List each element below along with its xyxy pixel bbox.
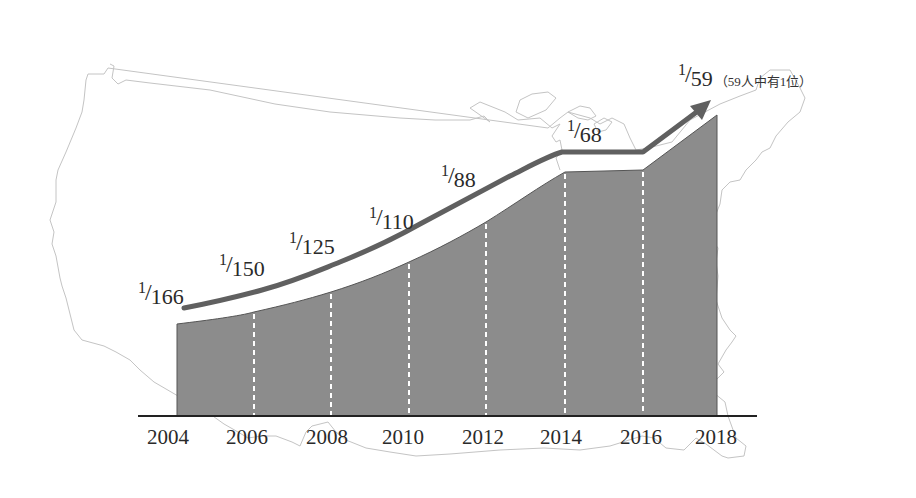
x-tick-2012: 2012 (462, 427, 504, 448)
x-tick-2010: 2010 (382, 427, 424, 448)
x-tick-2014: 2014 (540, 427, 582, 448)
annotation-2014: 1/68 (567, 118, 602, 146)
annotation-note: （59人中有1位） (715, 74, 813, 89)
x-tick-2016: 2016 (620, 427, 662, 448)
x-tick-2004: 2004 (147, 427, 189, 448)
x-tick-2006: 2006 (226, 427, 268, 448)
annotation-2004: 1/166 (138, 280, 184, 308)
x-tick-2018: 2018 (695, 427, 737, 448)
annotation-2010: 1/110 (369, 205, 414, 233)
annotation-2018: 1/59（59人中有1位） (678, 62, 812, 90)
annotation-2006: 1/150 (219, 252, 265, 280)
annotation-2008: 1/125 (289, 230, 335, 258)
annotation-2012: 1/88 (441, 163, 476, 191)
chart-stage: 1/166 1/150 1/125 1/110 1/88 1/68 1/59（5… (0, 0, 916, 498)
x-tick-2008: 2008 (306, 427, 348, 448)
